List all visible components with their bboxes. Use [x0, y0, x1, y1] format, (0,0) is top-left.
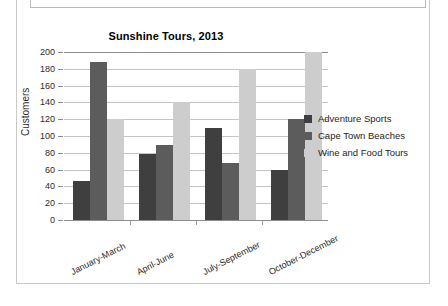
y-axis-tick [58, 220, 63, 221]
chart-title: Sunshine Tours, 2013 [16, 30, 316, 42]
bar[interactable] [156, 145, 173, 220]
bar[interactable] [139, 154, 156, 220]
y-axis-tick-label: 160 [40, 81, 55, 91]
legend-color-swatch-icon [304, 115, 312, 123]
bar[interactable] [288, 119, 305, 220]
bar[interactable] [73, 181, 90, 220]
y-axis-tick-label: 180 [40, 64, 55, 74]
y-axis-tick [58, 136, 63, 137]
bar-group [205, 52, 256, 220]
x-axis-category-label: January-March [69, 241, 127, 277]
y-axis-tick [58, 153, 63, 154]
legend-color-swatch-icon [304, 132, 312, 140]
y-axis-tick-label: 20 [45, 198, 55, 208]
legend-item-label: Cape Town Beaches [318, 130, 405, 141]
y-axis-tick [58, 86, 63, 87]
x-axis-category-label: April-June [135, 250, 176, 277]
bar-group [139, 52, 190, 220]
bar[interactable] [239, 69, 256, 220]
x-axis-tick [130, 220, 131, 225]
y-axis-tick [58, 119, 63, 120]
y-axis-tick-label: 120 [40, 114, 55, 124]
empty-text-box [30, 0, 426, 8]
chart-figure: Sunshine Tours, 2013 Customers 200180160… [16, 10, 430, 285]
y-axis-tick-label: 140 [40, 97, 55, 107]
y-axis-tick-label: 60 [45, 165, 55, 175]
y-axis-tick-label: 200 [40, 47, 55, 57]
legend-item[interactable]: Cape Town Beaches [304, 127, 428, 144]
legend-item-label: Wine and Food Tours [318, 147, 408, 158]
legend-item[interactable]: Wine and Food Tours [304, 144, 428, 161]
y-axis-tick [58, 52, 63, 53]
x-axis-category-label: October-December [267, 233, 340, 277]
y-axis-tick-label: 100 [40, 131, 55, 141]
bar[interactable] [90, 62, 107, 220]
legend-item[interactable]: Adventure Sports [304, 110, 428, 127]
y-axis-title: Customers [20, 88, 31, 136]
y-axis-tick [58, 69, 63, 70]
legend-color-swatch-icon [304, 149, 312, 157]
x-axis-tick [196, 220, 197, 225]
y-axis-tick-label: 40 [45, 181, 55, 191]
bar[interactable] [271, 170, 288, 220]
y-axis-tick [58, 170, 63, 171]
bar[interactable] [173, 102, 190, 220]
x-axis-category-label: July-September [201, 239, 262, 277]
y-axis-tick [58, 186, 63, 187]
bar[interactable] [205, 128, 222, 220]
bar-group [73, 52, 124, 220]
bar[interactable] [222, 163, 239, 220]
y-axis-tick [58, 203, 63, 204]
legend-item-label: Adventure Sports [318, 113, 391, 124]
bar[interactable] [107, 119, 124, 220]
y-axis-tick-label: 80 [45, 148, 55, 158]
x-axis-tick [262, 220, 263, 225]
chart-legend: Adventure SportsCape Town BeachesWine an… [304, 110, 428, 161]
plot-area: 200180160140120100806040200January-March… [64, 52, 328, 220]
y-axis-tick-label: 0 [50, 215, 55, 225]
y-axis-tick [58, 102, 63, 103]
